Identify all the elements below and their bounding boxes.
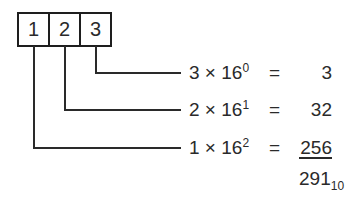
result-row-1: 3 <box>292 63 332 82</box>
connector-line-digit-2-horizontal <box>64 109 181 111</box>
times-sign: × <box>205 62 216 83</box>
expr-exponent: 2 <box>242 136 249 150</box>
connector-line-digit-3-horizontal <box>95 72 181 74</box>
times-sign: × <box>205 137 216 158</box>
expr-digit: 3 <box>189 62 200 83</box>
sum-underline <box>299 157 332 159</box>
total-value: 29110 <box>299 169 344 188</box>
connector-line-digit-1-vertical <box>33 46 35 148</box>
expr-base: 16 <box>221 137 242 158</box>
expression-row-3: 1 × 162 <box>189 138 249 157</box>
expression-row-2: 2 × 161 <box>189 100 249 119</box>
equals-sign-row-3: = <box>269 138 280 157</box>
times-sign: × <box>205 99 216 120</box>
connector-line-digit-1-horizontal <box>33 147 181 149</box>
expr-base: 16 <box>221 99 242 120</box>
result-row-3: 256 <box>292 138 332 157</box>
result-row-2: 32 <box>292 100 332 119</box>
equals-sign-row-1: = <box>269 63 280 82</box>
expr-digit: 1 <box>189 137 200 158</box>
digit-box-3: 3 <box>79 12 112 47</box>
expression-row-1: 3 × 160 <box>189 63 249 82</box>
expr-exponent: 0 <box>242 61 249 75</box>
expr-exponent: 1 <box>242 98 249 112</box>
equals-sign-row-2: = <box>269 100 280 119</box>
total-number: 291 <box>299 168 331 189</box>
digit-box-2: 2 <box>48 12 81 47</box>
total-base-subscript: 10 <box>331 179 344 193</box>
digit-box-1: 1 <box>17 12 50 47</box>
connector-line-digit-2-vertical <box>64 46 66 110</box>
expr-digit: 2 <box>189 99 200 120</box>
connector-line-digit-3-vertical <box>95 46 97 73</box>
expr-base: 16 <box>221 62 242 83</box>
